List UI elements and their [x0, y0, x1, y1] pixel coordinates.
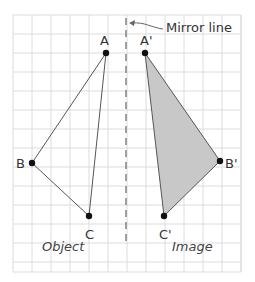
vertex-label-a: A [100, 33, 109, 48]
object-caption: Object [42, 239, 85, 254]
mirror-line-label: Mirror line [166, 20, 232, 35]
vertex-point [29, 160, 35, 166]
vertex-point [217, 158, 223, 164]
vertex-label-a-prime: A' [140, 33, 152, 48]
vertex-point [86, 213, 92, 219]
vertex-point [161, 213, 167, 219]
vertex-label-c-prime: C' [159, 227, 172, 242]
image-triangle [145, 53, 220, 216]
reflection-diagram: Mirror line A B C A' B' C' Object Image [0, 0, 255, 282]
vertex-label-c: C [85, 227, 94, 242]
arrowhead-icon [129, 20, 135, 26]
image-caption: Image [172, 239, 213, 254]
object-triangle [32, 53, 106, 216]
vertex-point [103, 50, 109, 56]
vertex-label-b-prime: B' [225, 156, 238, 171]
vertex-point [142, 50, 148, 56]
vertex-label-b: B [16, 156, 25, 171]
mirror-line-arrow-icon [132, 23, 163, 29]
